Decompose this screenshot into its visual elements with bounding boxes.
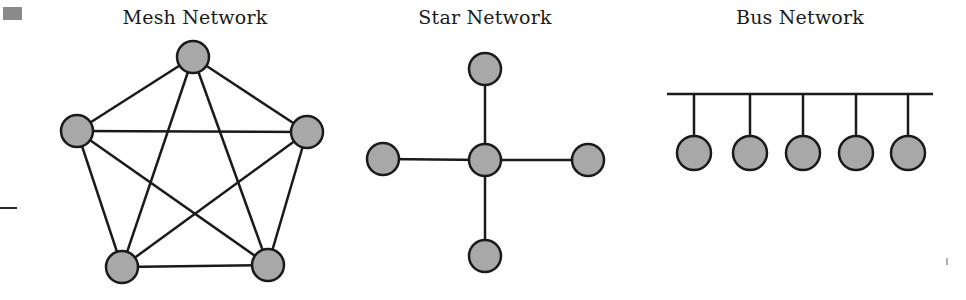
bus-node-3 <box>786 136 820 170</box>
mesh-link-6 <box>77 131 122 267</box>
mesh-node-left <box>61 115 93 147</box>
bus-node-5 <box>891 136 925 170</box>
mesh-link-2 <box>193 57 307 132</box>
mesh-link-9 <box>268 132 307 265</box>
mesh-node-bottom-right <box>252 249 284 281</box>
mesh-link-7 <box>77 131 268 265</box>
star-node-top <box>469 53 501 85</box>
mesh-node-bottom-left <box>106 251 138 283</box>
mesh-link-8 <box>122 132 307 267</box>
star-node-hub <box>469 144 501 176</box>
mesh-link-10 <box>122 265 268 267</box>
mesh-link-5 <box>77 131 307 132</box>
mesh-link-4 <box>193 57 268 265</box>
diagram-page: Mesh Network Star Network Bus Network <box>0 0 966 300</box>
star-node-left <box>367 143 399 175</box>
mesh-node-right <box>291 116 323 148</box>
star-node-right <box>572 144 604 176</box>
nodes-layer <box>61 41 925 283</box>
bus-node-4 <box>839 136 873 170</box>
mesh-link-1 <box>77 57 193 131</box>
mesh-node-top <box>177 41 209 73</box>
star-node-bottom <box>469 240 501 272</box>
bus-node-2 <box>733 136 767 170</box>
mesh-link-3 <box>122 57 193 267</box>
bus-node-1 <box>677 136 711 170</box>
network-topology-canvas <box>0 0 966 300</box>
